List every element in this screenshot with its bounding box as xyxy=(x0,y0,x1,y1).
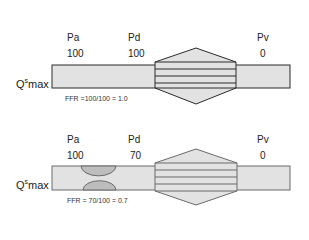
bottom-pa-label: Pa xyxy=(67,135,79,145)
bottom-pa-value: 100 xyxy=(67,151,84,161)
bottom-ffr-formula: FFR = 70/100 = 0.7 xyxy=(67,197,128,204)
bottom-pv-value: 0 xyxy=(260,151,266,161)
bottom-flow-label: Qsmax xyxy=(16,176,49,191)
top-pd-label: Pd xyxy=(128,33,140,43)
bottom-pd-label: Pd xyxy=(128,135,140,145)
top-pa-label: Pa xyxy=(67,33,79,43)
flow-q: Q xyxy=(16,78,25,90)
flow-sub: max xyxy=(28,78,49,90)
bottom-pd-value: 70 xyxy=(130,151,141,161)
flow-q: Q xyxy=(16,179,25,191)
top-ffr-formula: FFR =100/100 = 1.0 xyxy=(65,95,128,102)
bottom-pv-label: Pv xyxy=(257,135,269,145)
top-flow-label: Qsmax xyxy=(16,75,49,90)
flow-sub: max xyxy=(28,179,49,191)
top-pv-label: Pv xyxy=(257,33,269,43)
top-pv-value: 0 xyxy=(260,49,266,59)
top-pa-value: 100 xyxy=(67,49,84,59)
top-pd-value: 100 xyxy=(128,49,145,59)
